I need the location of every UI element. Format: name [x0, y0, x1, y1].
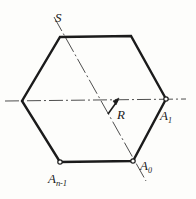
label-vertex-a0-subscript: 0 — [148, 166, 152, 175]
horizontal-axis-line — [5, 99, 186, 101]
label-vertex-a0: A0 — [140, 159, 152, 172]
label-vertex-a0-base: A — [140, 158, 148, 173]
vertex-marker-a1 — [164, 97, 168, 101]
label-s-axis: S — [55, 11, 62, 24]
hexagon-diagram — [0, 0, 196, 199]
vertex-marker-a0 — [131, 159, 135, 163]
vertex-marker-an1 — [58, 160, 62, 164]
hexagon-outline — [22, 36, 166, 162]
label-vertex-a1-subscript: 1 — [168, 116, 172, 125]
s-axis-line — [54, 17, 146, 181]
label-vertex-a1: A1 — [160, 109, 172, 122]
label-radius: R — [117, 108, 125, 121]
figure-canvas: S R A1 A0 An-1 — [0, 0, 196, 199]
label-vertex-an-minus-1: An-1 — [48, 172, 67, 185]
label-vertex-an-minus-1-subscript: n-1 — [56, 178, 67, 188]
label-vertex-a1-base: A — [160, 108, 168, 123]
label-vertex-an-minus-1-base: A — [48, 171, 56, 186]
